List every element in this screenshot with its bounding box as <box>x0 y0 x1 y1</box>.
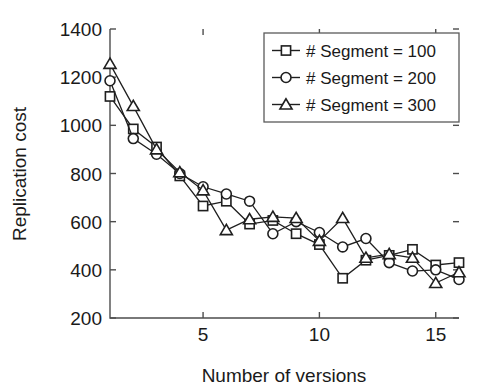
data-point-marker <box>128 134 138 144</box>
data-point-marker <box>105 92 114 101</box>
data-point-marker <box>198 201 207 210</box>
y-tick-label: 400 <box>70 260 102 281</box>
y-tick-label: 800 <box>70 164 102 185</box>
chart-figure: 51015 200400600800100012001400 # Segment… <box>0 0 484 390</box>
x-tick-label: 5 <box>198 324 209 345</box>
legend-marker-icon <box>281 73 291 83</box>
legend-item-label: # Segment = 200 <box>306 69 436 88</box>
data-point-marker <box>268 229 278 239</box>
replication-cost-line-chart: 51015 200400600800100012001400 # Segment… <box>0 0 484 390</box>
data-point-marker <box>407 266 417 276</box>
y-tick-label: 1200 <box>60 67 102 88</box>
x-tick-label: 15 <box>425 324 446 345</box>
chart-legend: # Segment = 100# Segment = 200# Segment … <box>264 33 459 122</box>
x-tick-label: 10 <box>309 324 330 345</box>
legend-item-label: # Segment = 100 <box>306 42 436 61</box>
data-point-marker <box>292 229 301 238</box>
y-tick-label: 1000 <box>60 115 102 136</box>
y-axis-title: Replication cost <box>9 106 30 241</box>
data-point-marker <box>338 274 347 283</box>
data-point-marker <box>431 265 441 275</box>
y-tick-label: 200 <box>70 308 102 329</box>
data-point-marker <box>105 76 115 86</box>
x-axis-title: Number of versions <box>202 365 367 386</box>
data-point-marker <box>221 189 231 199</box>
legend-item-label: # Segment = 300 <box>306 96 436 115</box>
y-tick-label: 1400 <box>60 19 102 40</box>
data-point-marker <box>245 196 255 206</box>
data-point-marker <box>338 242 348 252</box>
y-tick-label: 600 <box>70 212 102 233</box>
legend-marker-icon <box>281 46 290 55</box>
data-point-marker <box>361 234 371 244</box>
